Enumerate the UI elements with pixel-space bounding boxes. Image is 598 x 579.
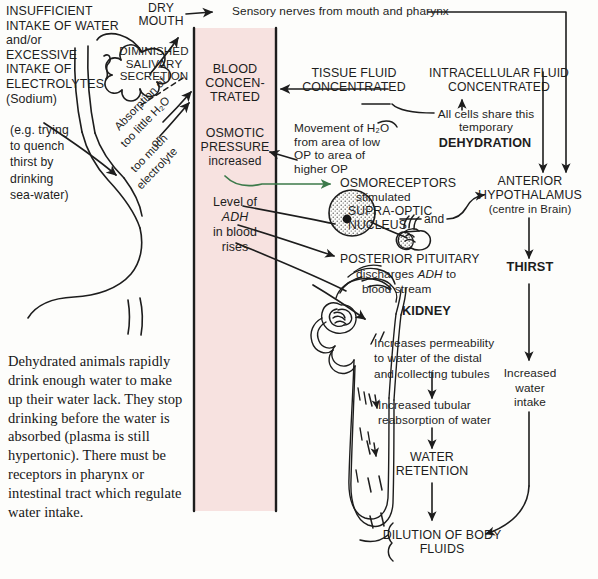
dry-mouth-label: DRY MOUTH	[132, 2, 190, 29]
osmotic-pressure-sub-label: increased	[192, 155, 278, 168]
thirst-label: THIRST	[490, 260, 570, 274]
posterior-pituitary-sub-line-2: blood stream	[362, 283, 431, 296]
tubular-reabsorption-label: Increased tubular reabsorption of water	[378, 398, 491, 427]
diagram-canvas: INSUFFICIENT INTAKE OF WATER and/or EXCE…	[0, 0, 598, 579]
diminished-salivary-secretion-label: DIMINISHED SALIVARY SECRETION	[108, 45, 200, 83]
osmoreceptors-sub-label: stimulated	[356, 191, 411, 204]
intracellular-fluid-label: INTRACELLULAR FLUID CONCENTRATED	[418, 66, 580, 94]
discharges-text: discharges	[356, 267, 417, 281]
dehydration-label: DEHYDRATION	[420, 136, 550, 150]
centre-in-brain-label: (centre in Brain)	[466, 203, 594, 216]
all-cells-line-2: temporary	[424, 121, 548, 134]
anterior-hypothalamus-label: ANTERIOR HYPOTHALAMUS	[466, 174, 594, 202]
cause-note-label: (e.g. trying to quench thirst by drinkin…	[10, 122, 69, 203]
osmoreceptors-label: OSMORECEPTORS	[340, 177, 456, 191]
nucleus-label: NUCLEUS	[348, 219, 407, 233]
movement-of-water-note: Movement of H₂O from area of low OP to a…	[294, 122, 389, 176]
adh-level-line-1: Level of	[192, 196, 278, 210]
osmotic-pressure-label: OSMOTIC PRESSURE	[192, 126, 278, 154]
adh-italic-text: ADH	[417, 267, 442, 281]
and-connector-label: and	[424, 213, 444, 226]
dilution-of-body-fluids-label: DILUTION OF BODY FLUIDS	[378, 528, 506, 556]
tissue-fluid-concentrated-label: TISSUE FLUID CONCENTRATED	[292, 66, 416, 94]
kidney-effect-label: Increases permeability to water of the d…	[374, 336, 494, 382]
increased-water-intake-label: Increased water intake	[492, 366, 568, 410]
posterior-pituitary-label: POSTERIOR PITUITARY	[340, 253, 480, 267]
supra-optic-label: SUPRA-OPTIC	[348, 205, 432, 219]
dehydration-paragraph: Dehydrated animals rapidly drink enough …	[8, 352, 190, 522]
blood-concentrated-label: BLOOD CONCEN- TRATED	[194, 62, 276, 105]
posterior-pituitary-sub-line-1: discharges ADH to	[356, 268, 456, 281]
adh-level-line-3: in blood	[192, 226, 278, 240]
sensory-nerves-label: Sensory nerves from mouth and pharynx	[232, 5, 449, 18]
adh-level-line-2: ADH	[192, 211, 278, 225]
water-retention-label: WATER RETENTION	[392, 450, 472, 478]
adh-level-line-4: rises	[192, 241, 278, 255]
kidney-label: KIDNEY	[402, 304, 451, 318]
cause-block-label: INSUFFICIENT INTAKE OF WATER and/or EXCE…	[6, 4, 119, 106]
to-text: to	[443, 267, 456, 281]
